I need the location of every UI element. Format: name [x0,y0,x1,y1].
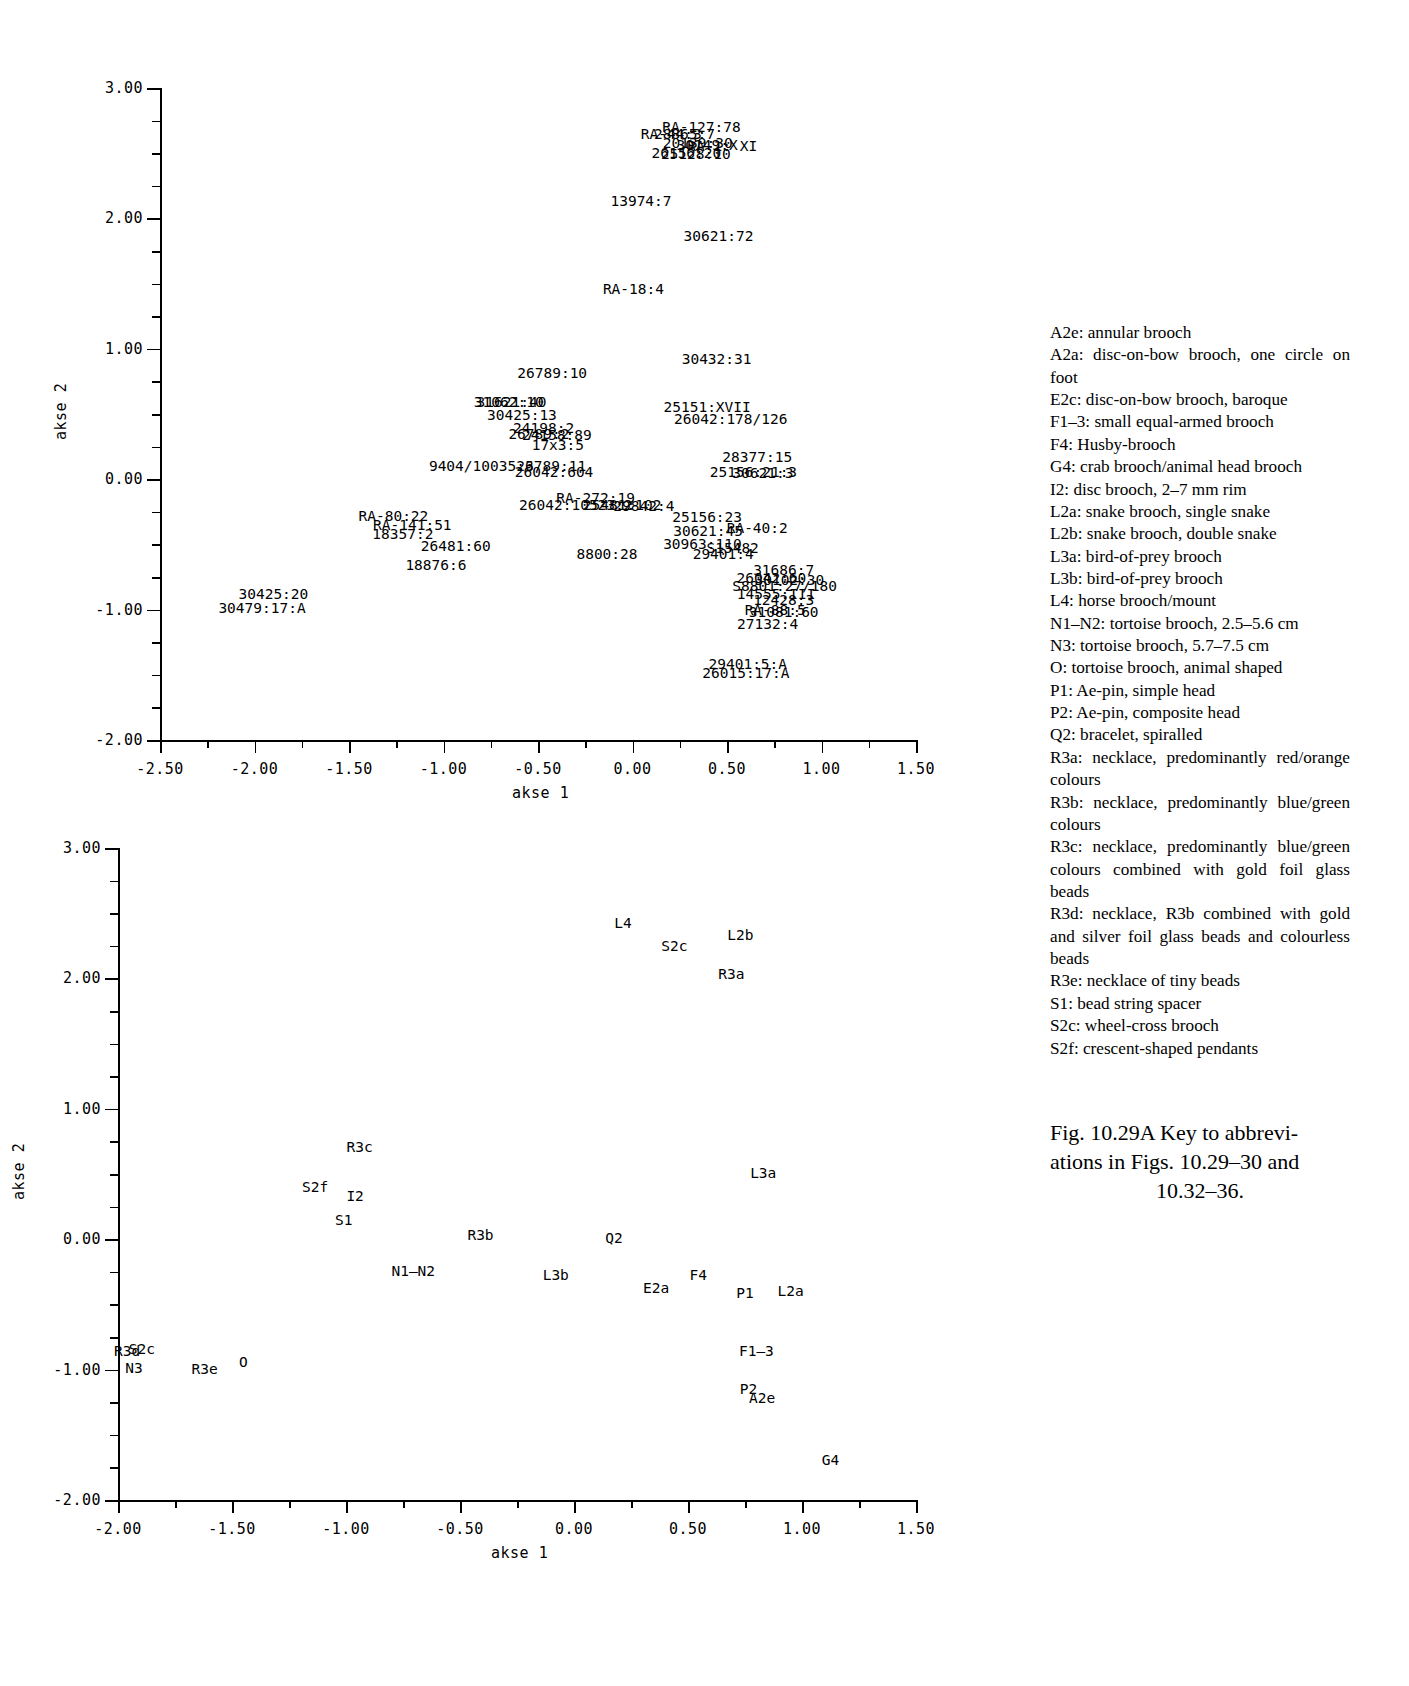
y-axis-minor-tick [152,381,160,383]
data-point-label: S2c [661,938,687,954]
data-point-label: N3 [125,1360,142,1376]
y-tick-label: 0.00 [81,470,143,488]
key-entry: L2a: snake brooch, single snake [1050,501,1350,523]
y-tick-label: 0.00 [39,1230,101,1248]
data-point-label: S2c [129,1341,155,1357]
x-axis-minor-tick [302,740,304,748]
y-axis-major-tick [105,1239,118,1241]
y-axis-minor-tick [110,1402,118,1404]
data-point-label: E2a [643,1280,669,1296]
y-axis-major-tick [147,740,160,742]
key-entry: R3b: necklace, predominantly blue/green … [1050,792,1350,837]
key-entry: S1: bead string spacer [1050,993,1350,1015]
x-axis-major-tick [118,1500,120,1513]
key-entry: R3d: necklace, R3b combined with gold an… [1050,903,1350,970]
data-point-label: RA-18:4 [603,281,664,297]
y-tick-label: 3.00 [81,79,143,97]
data-point-label: S1 [335,1212,352,1228]
y-axis-major-tick [105,1370,118,1372]
key-entry: F4: Husby-brooch [1050,434,1350,456]
data-point-label: 27132:4 [737,616,798,632]
x-tick-label: -0.50 [415,1520,505,1538]
data-point-label: 18876:6 [405,557,466,573]
key-entry: Q2: bracelet, spiralled [1050,724,1350,746]
key-entry: R3c: necklace, predominantly blue/green … [1050,836,1350,903]
y-axis-minor-tick [152,544,160,546]
y-axis-minor-tick [110,1207,118,1209]
x-axis-minor-tick [774,740,776,748]
key-entry: N1–N2: tortoise brooch, 2.5–5.6 cm [1050,613,1350,635]
y-axis-minor-tick [110,1337,118,1339]
abbreviation-key-list: A2e: annular broochA2a: disc-on-bow broo… [1050,322,1350,1060]
data-point-label: L2a [777,1283,803,1299]
x-axis-minor-tick [175,1500,177,1508]
data-point-label: R3a [718,966,744,982]
y-axis-title: akse 2 [10,1143,28,1200]
y-axis-major-tick [105,1500,118,1502]
x-tick-label: 0.50 [643,1520,733,1538]
y-axis-minor-tick [110,881,118,883]
x-axis-minor-tick [680,740,682,748]
key-entry: N3: tortoise brooch, 5.7–7.5 cm [1050,635,1350,657]
y-axis-minor-tick [110,1272,118,1274]
caption-line-3: 10.32–36. [1050,1176,1350,1205]
key-entry: O: tortoise brooch, animal shaped [1050,657,1350,679]
key-entry: R3a: necklace, predominantly red/orange … [1050,747,1350,792]
y-axis-major-tick [147,479,160,481]
data-point-label: G4 [822,1452,839,1468]
x-axis-minor-tick [585,740,587,748]
y-axis-minor-tick [152,642,160,644]
x-tick-label: 0.00 [529,1520,619,1538]
y-axis-major-tick [147,349,160,351]
data-point-label: 17x3:5 [532,437,584,453]
y-axis-minor-tick [110,1076,118,1078]
data-point-label: 28377:15 [722,449,792,465]
x-axis-minor-tick [517,1500,519,1508]
data-point-label: P1 [736,1285,753,1301]
data-point-label: 30432:31 [682,351,752,367]
data-point-label: Q2 [605,1230,622,1246]
y-axis-major-tick [105,978,118,980]
y-axis-minor-tick [110,1141,118,1143]
data-point-label: O [239,1354,248,1370]
key-entry: S2c: wheel-cross brooch [1050,1015,1350,1037]
x-tick-label: 0.00 [588,760,678,778]
x-axis-title: akse 1 [491,1544,548,1562]
x-tick-label: 0.50 [682,760,772,778]
x-axis-major-tick [232,1500,234,1513]
y-axis-minor-tick [110,1174,118,1176]
figure-caption: Fig. 10.29A Key to abbrevi- ations in Fi… [1050,1118,1350,1205]
key-entry: L4: horse brooch/mount [1050,590,1350,612]
key-entry: L3b: bird-of-prey brooch [1050,568,1350,590]
x-tick-label: -2.00 [73,1520,163,1538]
data-point-label: L2b [727,927,753,943]
y-axis-minor-tick [152,121,160,123]
x-axis-minor-tick [396,740,398,748]
data-point-label: 30621:72 [684,228,754,244]
x-axis-major-tick [688,1500,690,1513]
y-axis-minor-tick [152,707,160,709]
y-tick-label: -2.00 [39,1491,101,1509]
data-point-label: L3b [543,1267,569,1283]
x-axis-minor-tick [207,740,209,748]
data-point-label: 13974:7 [610,193,671,209]
key-entry: A2e: annular brooch [1050,322,1350,344]
data-point-label: 29842:4 [613,498,674,514]
key-entry: P2: Ae-pin, composite head [1050,702,1350,724]
y-tick-label: 2.00 [81,209,143,227]
y-axis-minor-tick [152,675,160,677]
key-entry: R3e: necklace of tiny beads [1050,970,1350,992]
y-axis-minor-tick [152,186,160,188]
y-axis-major-tick [147,610,160,612]
y-axis-minor-tick [152,512,160,514]
data-point-label: 25128:10 [661,146,731,162]
data-point-label: L4 [614,915,631,931]
data-point-label: 26015:17:A [702,665,789,681]
y-axis-minor-tick [152,414,160,416]
data-point-label: L3a [750,1165,776,1181]
data-point-label: 8800:28 [576,546,637,562]
x-tick-label: 1.50 [871,1520,961,1538]
x-axis-minor-tick [491,740,493,748]
caption-line-1: Fig. 10.29A Key to abbrevi- [1050,1118,1350,1147]
y-axis-line [160,88,162,740]
